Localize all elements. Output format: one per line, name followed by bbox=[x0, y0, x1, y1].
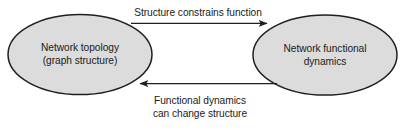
diagram-canvas: Network topology (graph structure) Netwo… bbox=[0, 0, 404, 130]
edge-bottom-label-line2: can change structure bbox=[120, 107, 280, 120]
edge-top-label-line1: Structure constrains function bbox=[118, 6, 278, 19]
node-network-topology-line2: (graph structure) bbox=[7, 55, 153, 68]
node-network-functional-dynamics-label: Network functional dynamics bbox=[252, 43, 398, 68]
node-network-topology-label: Network topology (graph structure) bbox=[7, 42, 153, 67]
node-network-functional-dynamics-line2: dynamics bbox=[252, 56, 398, 69]
node-network-topology-line1: Network topology bbox=[7, 42, 153, 55]
edge-dynamics-change-structure-label: Functional dynamics can change structure bbox=[120, 94, 280, 120]
edge-structure-constrains-function-label: Structure constrains function bbox=[118, 6, 278, 19]
node-network-functional-dynamics-line1: Network functional bbox=[252, 43, 398, 56]
edge-bottom-label-line1: Functional dynamics bbox=[120, 94, 280, 107]
